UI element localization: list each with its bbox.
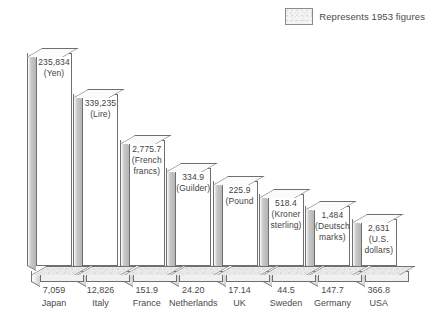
bar-pedestal [365, 271, 409, 282]
bar-side-face [166, 168, 175, 271]
bar-front-face [361, 219, 397, 266]
bar-side-face [259, 194, 268, 271]
bar-sweden[interactable]: 518.4(Kronersterling) [268, 194, 304, 266]
bar-side-face [27, 53, 36, 271]
bar-pedestal [133, 271, 177, 282]
bar-france[interactable]: 2,775.7(Frenchfrancs) [129, 140, 165, 266]
bar-side-face [213, 181, 222, 271]
bar-side-face [120, 140, 129, 271]
bar-side-face [73, 94, 82, 271]
bar-pedestal [318, 271, 362, 282]
bar-front-face [268, 194, 304, 266]
bar-netherlands[interactable]: 334.9(Guilder) [175, 168, 211, 266]
bar-italy[interactable]: 339,235(Lire) [82, 94, 118, 266]
axis-tick-value: 366.8 [349, 284, 409, 297]
bar-uk[interactable]: 225.9(Pound [222, 181, 258, 266]
bar-pedestal [86, 271, 130, 282]
bar-pedestal [272, 271, 316, 282]
bar-chart-3d: Represents 1953 figures 235,834(Yen)7,05… [0, 0, 431, 312]
bar-usa[interactable]: 2,631(U.S.dollars) [361, 219, 397, 266]
axis-country-name: USA [349, 297, 409, 310]
bar-germany[interactable]: 1,484(Deutschmarks) [314, 206, 350, 266]
bar-pedestal [40, 271, 84, 282]
bar-front-face [82, 94, 118, 266]
bar-front-face [129, 140, 165, 266]
plot-area: 235,834(Yen)7,059Japan339,235(Lire)12,82… [0, 0, 431, 312]
bar-pedestal [179, 271, 223, 282]
bar-pedestal [226, 271, 270, 282]
axis-label-usa: 366.8USA [349, 284, 409, 310]
bar-front-face [36, 53, 72, 266]
bar-side-face [352, 219, 361, 271]
bar-front-face [175, 168, 211, 266]
bar-side-face [305, 206, 314, 271]
bar-japan[interactable]: 235,834(Yen) [36, 53, 72, 266]
bar-front-face [222, 181, 258, 266]
bar-front-face [314, 206, 350, 266]
